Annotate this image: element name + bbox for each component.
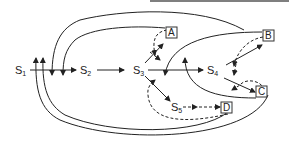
svg-text:D: D	[223, 102, 230, 113]
state-s1: S1	[15, 64, 26, 77]
box-b: B	[263, 30, 274, 41]
edge-s4-to-b	[226, 45, 262, 65]
edge-s4-to-c	[224, 78, 255, 92]
edge-a-to-s1	[63, 27, 165, 75]
state-s4: S4	[207, 64, 218, 77]
edge-d-to-s3-dashed	[148, 80, 228, 120]
edge-c-to-s3	[185, 58, 256, 98]
svg-text:B: B	[265, 30, 272, 41]
state-s5: S5	[171, 101, 182, 114]
state-s3: S3	[133, 64, 144, 77]
svg-text:C: C	[258, 86, 265, 97]
state-diagram: S1 S2 S3 S4 S5 A B C D	[0, 0, 289, 143]
state-s2: S2	[80, 64, 91, 77]
svg-text:A: A	[168, 27, 175, 38]
edge-b-to-s4-dashed	[234, 37, 263, 66]
box-a: A	[166, 27, 177, 38]
edge-s3-to-a	[145, 44, 163, 63]
edge-s4-down-dashed	[234, 64, 236, 75]
diagram-canvas: S1 S2 S3 S4 S5 A B C D	[0, 0, 289, 143]
box-c: C	[256, 86, 267, 97]
box-d: D	[221, 102, 232, 113]
